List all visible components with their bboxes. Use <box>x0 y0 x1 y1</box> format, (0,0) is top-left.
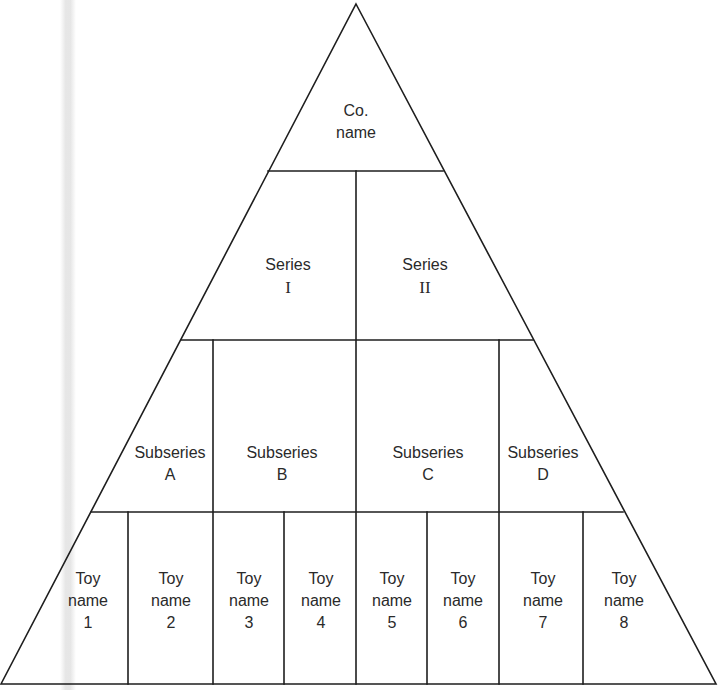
node-subseries-d-line1: Subseries <box>507 444 578 461</box>
node-subseries-c-line1: Subseries <box>392 444 463 461</box>
node-subseries-a-line1: Subseries <box>134 444 205 461</box>
node-series-1-line1: Series <box>265 256 310 273</box>
node-toy-4: Toy name 4 <box>301 570 341 631</box>
node-toy-1-line3: 1 <box>84 614 93 631</box>
node-toy-7: Toy name 7 <box>523 570 563 631</box>
node-series-2-line1: Series <box>402 256 447 273</box>
node-subseries-c: Subseries C <box>392 444 463 483</box>
node-series-1: Series I <box>265 256 310 297</box>
node-company: Co. name <box>336 102 376 141</box>
node-toy-5-line3: 5 <box>388 614 397 631</box>
node-toy-2: Toy name 2 <box>151 570 191 631</box>
node-subseries-d-line2: D <box>537 466 549 483</box>
node-toy-4-line3: 4 <box>317 614 326 631</box>
node-toy-1-line1: Toy <box>76 570 101 587</box>
node-subseries-b-line1: Subseries <box>246 444 317 461</box>
node-toy-8: Toy name 8 <box>604 570 644 631</box>
node-subseries-a: Subseries A <box>134 444 205 483</box>
node-subseries-d: Subseries D <box>507 444 578 483</box>
node-toy-7-line3: 7 <box>539 614 548 631</box>
node-toy-6-line2: name <box>443 592 483 609</box>
node-toy-6-line1: Toy <box>451 570 476 587</box>
node-toy-1-line2: name <box>68 592 108 609</box>
node-toy-2-line3: 2 <box>167 614 176 631</box>
node-toy-5: Toy name 5 <box>372 570 412 631</box>
node-toy-8-line3: 8 <box>620 614 629 631</box>
node-subseries-b-line2: B <box>277 466 288 483</box>
node-company-line2: name <box>336 124 376 141</box>
node-toy-7-line1: Toy <box>531 570 556 587</box>
node-toy-5-line1: Toy <box>380 570 405 587</box>
node-toy-2-line1: Toy <box>159 570 184 587</box>
hierarchy-pyramid: Co. name Series I Series II Subseries A … <box>0 0 721 690</box>
node-subseries-b: Subseries B <box>246 444 317 483</box>
node-toy-1: Toy name 1 <box>68 570 108 631</box>
node-toy-3-line2: name <box>229 592 269 609</box>
node-toy-8-line1: Toy <box>612 570 637 587</box>
node-subseries-c-line2: C <box>422 466 434 483</box>
node-toy-3: Toy name 3 <box>229 570 269 631</box>
node-toy-4-line2: name <box>301 592 341 609</box>
node-company-line1: Co. <box>344 102 369 119</box>
node-toy-8-line2: name <box>604 592 644 609</box>
node-series-2: Series II <box>402 256 447 297</box>
node-subseries-a-line2: A <box>165 466 176 483</box>
node-toy-5-line2: name <box>372 592 412 609</box>
node-toy-4-line1: Toy <box>309 570 334 587</box>
node-toy-2-line2: name <box>151 592 191 609</box>
node-toy-3-line1: Toy <box>237 570 262 587</box>
node-series-2-line2: II <box>419 278 431 297</box>
node-toy-6: Toy name 6 <box>443 570 483 631</box>
node-toy-3-line3: 3 <box>245 614 254 631</box>
node-toy-7-line2: name <box>523 592 563 609</box>
node-series-1-line2: I <box>285 278 291 297</box>
node-toy-6-line3: 6 <box>459 614 468 631</box>
